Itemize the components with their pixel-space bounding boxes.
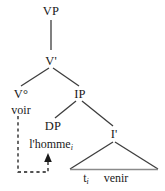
node-i-bar: I' [111,128,117,141]
triangle-right-edge [115,142,158,169]
terminal-trace-index: i [87,177,89,186]
node-v-bar: V' [45,55,56,68]
syntactic-tree-figure: VP V' V° IP DP I' voir l'hommei ti venir [0,0,165,191]
node-dp: DP [45,120,61,133]
movement-arrowhead-icon [44,153,52,162]
branch-vbar-to-ip [53,68,79,86]
terminal-venir: venir [104,172,129,185]
terminal-voir: voir [11,104,30,117]
node-ip: IP [74,88,86,101]
triangle-left-edge [70,142,113,169]
node-vp: VP [43,5,59,18]
terminal-lhomme-text: l'homme [29,137,71,151]
branch-vbar-to-vhead [21,68,49,86]
branch-ip-to-ibar [82,101,113,126]
terminal-trace: ti [83,172,89,188]
node-v-head: V° [14,88,28,101]
branch-ip-to-dp [55,101,76,118]
terminal-lhomme: l'hommei [29,138,73,154]
terminal-lhomme-index: i [71,143,73,152]
